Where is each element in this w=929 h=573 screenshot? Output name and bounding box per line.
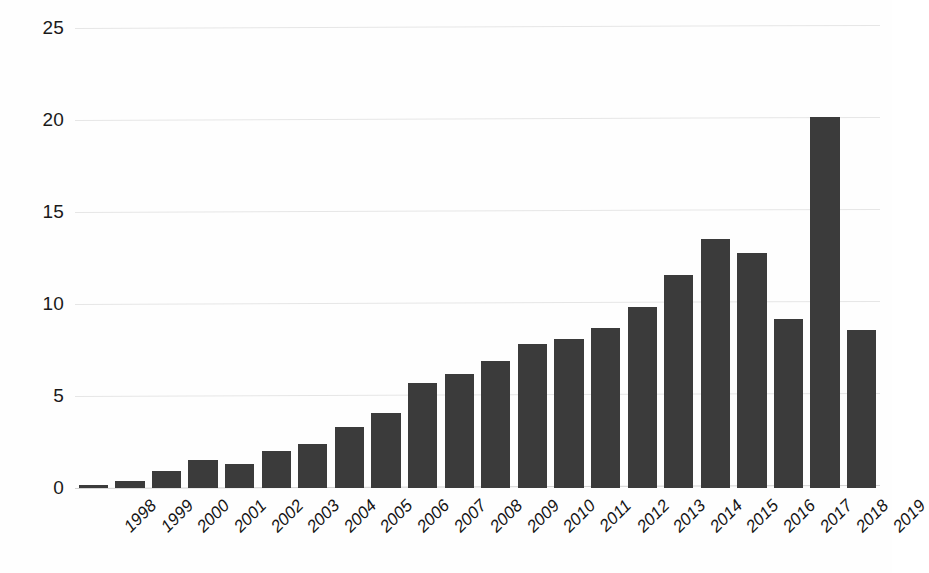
bar-2015 [701, 28, 730, 488]
bar-2000 [152, 28, 181, 488]
x-tick-label: 2011 [596, 496, 636, 536]
x-tick-label: 2000 [194, 496, 235, 537]
bar-1999 [115, 28, 144, 488]
bar-rect [481, 361, 510, 488]
bar-2010 [518, 28, 547, 488]
y-tick-label: 15 [8, 201, 64, 223]
x-tick-label: 2003 [303, 496, 344, 537]
y-tick-label: 25 [8, 17, 64, 39]
y-tick-label: 0 [8, 477, 64, 499]
bar-2016 [737, 28, 766, 488]
bar-2004 [298, 28, 327, 488]
x-tick-label: 2016 [779, 496, 820, 537]
x-tick-label: 2010 [559, 496, 600, 537]
bar-2009 [481, 28, 510, 488]
bar-rect [554, 339, 583, 488]
x-tick-label: 2015 [742, 496, 783, 537]
bar-rect [701, 239, 730, 488]
bar-2018 [810, 28, 839, 488]
bar-2012 [591, 28, 620, 488]
bar-2007 [408, 28, 437, 488]
y-tick-label: 20 [8, 109, 64, 131]
bar-2011 [554, 28, 583, 488]
bar-rect [79, 485, 108, 488]
bar-rect [628, 307, 657, 488]
bar-2014 [664, 28, 693, 488]
x-tick-label: 2001 [230, 496, 271, 537]
x-tick-label: 2012 [633, 496, 674, 537]
x-tick-label: 2018 [852, 496, 893, 537]
x-tick-label: 2002 [267, 496, 308, 537]
x-tick-label: 2013 [669, 496, 710, 537]
y-tick-label: 5 [8, 385, 64, 407]
x-tick-label: 2019 [889, 496, 929, 537]
bar-rect [298, 444, 327, 488]
bar-series [75, 28, 880, 488]
bar-rect [737, 253, 766, 488]
y-tick-label: 10 [8, 293, 64, 315]
bar-rect [591, 328, 620, 488]
bar-rect [152, 471, 181, 488]
bar-2006 [371, 28, 400, 488]
bar-2013 [628, 28, 657, 488]
bar-rect [335, 427, 364, 488]
bar-rect [262, 451, 291, 488]
bar-2017 [774, 28, 803, 488]
bar-rect [188, 460, 217, 488]
bar-2008 [445, 28, 474, 488]
bar-rect [810, 117, 839, 488]
bar-rect [518, 344, 547, 488]
x-tick-label: 2008 [486, 496, 527, 537]
bar-rect [847, 330, 876, 488]
bar-rect [774, 319, 803, 488]
x-tick-label: 2005 [377, 496, 418, 537]
bar-rect [664, 275, 693, 488]
bar-2001 [188, 28, 217, 488]
x-axis-tick-labels: 1998199920002001200220032004200520062007… [75, 492, 880, 572]
bar-2005 [335, 28, 364, 488]
x-tick-label: 2017 [816, 496, 857, 537]
bar-rect [115, 481, 144, 488]
x-tick-label: 1998 [120, 496, 161, 537]
plot-area [75, 28, 880, 488]
bar-2002 [225, 28, 254, 488]
bar-2003 [262, 28, 291, 488]
bar-rect [408, 383, 437, 488]
x-tick-label: 1999 [157, 496, 198, 537]
x-tick-label: 2014 [706, 496, 747, 537]
bar-2019 [847, 28, 876, 488]
x-tick-label: 2007 [450, 496, 491, 537]
x-tick-label: 2006 [413, 496, 454, 537]
x-tick-label: 2004 [340, 496, 381, 537]
bar-rect [225, 464, 254, 488]
bar-rect [371, 413, 400, 488]
bar-1998 [79, 28, 108, 488]
bar-rect [445, 374, 474, 488]
x-tick-label: 2009 [523, 496, 564, 537]
